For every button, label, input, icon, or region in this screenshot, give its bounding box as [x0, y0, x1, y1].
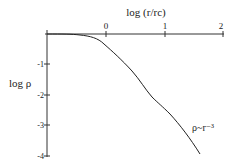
y-tick-label-1: -1	[37, 60, 44, 69]
x-tick-label-2: 2	[219, 21, 224, 31]
y-tick-label-2: -2	[37, 91, 44, 100]
density-curve	[47, 34, 200, 154]
y-tick-label-3: -3	[37, 121, 44, 130]
chart: 0 1 2 -1 -2 -3 -4 log (r/rc) log ρ ρ~r⁻³	[0, 0, 227, 168]
x-tick-label-0: 0	[104, 21, 109, 31]
x-tick-label-1: 1	[163, 21, 168, 31]
y-tick-label-4: -4	[37, 152, 44, 161]
x-axis-label: log (r/rc)	[126, 6, 166, 19]
slope-annotation: ρ~r⁻³	[192, 122, 214, 133]
y-axis-label: log ρ	[9, 77, 32, 89]
